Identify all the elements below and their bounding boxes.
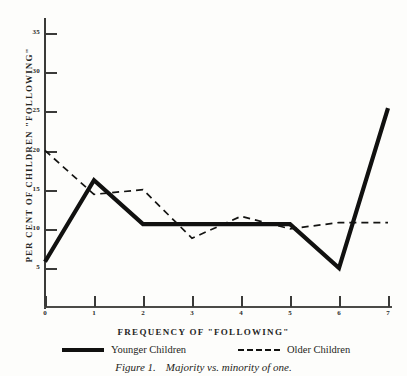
figure-caption-text: Majority vs. minority of one. [166,361,292,373]
legend-item-older-children: Older Children [238,344,350,355]
legend-swatch-dashed-icon [238,349,280,351]
legend-label-older-children: Older Children [287,344,350,355]
chart-legend: Younger Children Older Children [0,344,407,360]
series-line-younger-children [45,108,388,268]
x-axis-title: FREQUENCY OF "FOLLOWING" [0,327,407,337]
legend-label-younger-children: Younger Children [111,344,186,355]
chart-series-layer [0,0,407,376]
legend-swatch-solid-icon [62,348,104,352]
legend-item-younger-children: Younger Children [62,344,186,355]
figure-caption-number: Figure 1. [115,361,156,373]
figure-1-chart: 35 30 25 20 15 10 5 0 1 2 3 4 5 6 7 PER … [0,0,407,376]
figure-caption: Figure 1.Majority vs. minority of one. [0,361,407,373]
y-axis-title: PER CENT OF CHILDREN "FOLLOWING" [24,30,34,280]
